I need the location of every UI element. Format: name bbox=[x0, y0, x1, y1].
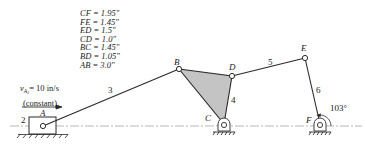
label-joint-a: A bbox=[40, 109, 46, 118]
label-link-4: 4 bbox=[231, 96, 236, 105]
joint-e bbox=[302, 55, 307, 60]
link-3 bbox=[43, 69, 179, 126]
joint-d bbox=[229, 73, 234, 78]
joint-b bbox=[176, 66, 181, 71]
ground-pivot-c bbox=[213, 118, 235, 135]
label-link-2: 2 bbox=[21, 116, 26, 125]
velocity-note: (constant) bbox=[20, 98, 59, 108]
label-joint-b: B bbox=[174, 58, 180, 67]
label-joint-e: E bbox=[301, 44, 307, 53]
ground-pivot-f bbox=[309, 118, 331, 135]
velocity-label: vA2= 10 in/s (constant) bbox=[20, 83, 59, 108]
dimensions-list: CF = 1.95" FE = 1.45" ED = 1.5" CD = 1.0… bbox=[80, 9, 120, 69]
label-link-3: 3 bbox=[108, 86, 113, 95]
slider-ground bbox=[17, 135, 68, 139]
label-link-5: 5 bbox=[268, 58, 273, 67]
label-joint-c: C bbox=[205, 114, 211, 123]
joint-a bbox=[40, 123, 45, 128]
linkage-diagram bbox=[0, 0, 365, 149]
dimension-ab: AB = 3.0" bbox=[80, 61, 120, 70]
label-joint-f: F bbox=[306, 116, 312, 125]
label-joint-d: D bbox=[229, 63, 236, 72]
velocity-value: = 10 in/s bbox=[29, 83, 59, 93]
label-link-6: 6 bbox=[316, 86, 321, 95]
angle-label: 103° bbox=[330, 104, 347, 113]
